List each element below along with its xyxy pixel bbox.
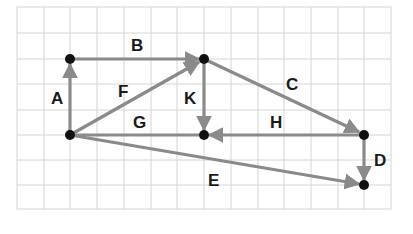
label-k: K [184,89,197,108]
point-1 [65,130,75,140]
label-g: G [133,113,146,132]
label-f: F [118,82,128,101]
point-3 [199,54,209,64]
points [65,54,369,190]
label-c: C [286,75,298,94]
vector-diagram: A B C D E F G H K [0,0,413,234]
label-d: D [374,151,386,170]
point-4 [199,130,209,140]
label-h: H [270,113,282,132]
vectors [70,59,364,184]
label-a: A [51,89,63,108]
label-b: B [131,36,143,55]
point-6 [359,180,369,190]
point-2 [65,54,75,64]
point-5 [359,130,369,140]
label-e: E [208,171,219,190]
